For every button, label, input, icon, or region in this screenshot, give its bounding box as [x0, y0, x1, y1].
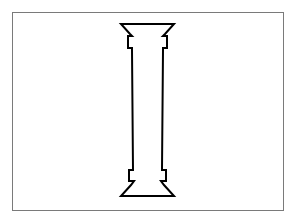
column-figure [0, 0, 296, 217]
column-outline [121, 24, 174, 196]
